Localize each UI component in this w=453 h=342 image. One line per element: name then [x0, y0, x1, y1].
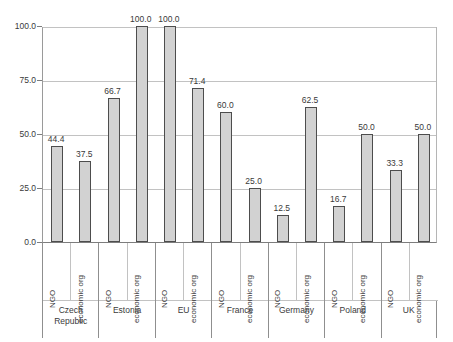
- y-axis-tick-label: 75.0: [0, 76, 36, 85]
- bar: [390, 170, 402, 242]
- plot-area: [42, 27, 437, 243]
- series-label-cell: economic org: [183, 243, 211, 301]
- y-axis-tick-label: 25.0: [0, 184, 36, 193]
- bar-value-label: 62.5: [290, 96, 330, 105]
- series-label-cell: NGO: [98, 243, 126, 301]
- series-label-cell: NGO: [324, 243, 352, 301]
- bar: [361, 134, 373, 242]
- gridline: [43, 189, 436, 190]
- bar-value-label: 60.0: [205, 101, 245, 110]
- y-axis-tick-label: 50.0: [0, 130, 36, 139]
- group-label-cell: Poland: [324, 301, 380, 338]
- bar: [249, 188, 261, 242]
- y-axis-tick-label: 0.0: [0, 238, 36, 247]
- series-label-cell: economic org: [127, 243, 155, 301]
- bar: [418, 134, 430, 242]
- group-label-row: Czech RepublicEstoniaEUFranceGermanyPola…: [42, 301, 438, 338]
- bar: [51, 146, 63, 242]
- bar-value-label: 50.0: [346, 123, 386, 132]
- gridline: [43, 27, 436, 28]
- bar: [164, 26, 176, 242]
- group-label-cell: Estonia: [98, 301, 154, 338]
- bar-value-label: 37.5: [64, 150, 104, 159]
- bar-value-label: 66.7: [93, 87, 133, 96]
- series-label-cell: economic org: [352, 243, 380, 301]
- series-label-cell: NGO: [211, 243, 239, 301]
- bar-value-label: 12.5: [262, 204, 302, 213]
- bar-value-label: 50.0: [403, 123, 443, 132]
- group-label: Germany: [279, 305, 314, 316]
- group-label-cell: France: [211, 301, 267, 338]
- group-label-cell: EU: [155, 301, 211, 338]
- y-axis-tick-label: 100.0: [0, 22, 36, 31]
- group-label: France: [227, 305, 253, 316]
- bar-value-label: 16.7: [318, 195, 358, 204]
- series-label-cell: NGO: [155, 243, 183, 301]
- bar: [79, 161, 91, 242]
- bar-value-label: 100.0: [149, 15, 189, 24]
- bar: [305, 107, 317, 242]
- group-label-cell: Germany: [268, 301, 324, 338]
- gridline: [43, 81, 436, 82]
- bar-value-label: 44.4: [36, 135, 76, 144]
- group-label: Czech Republic: [54, 305, 87, 327]
- series-label-row: NGOeconomic orgNGOeconomic orgNGOeconomi…: [42, 243, 438, 301]
- group-label: Estonia: [113, 305, 141, 316]
- x-axis: NGOeconomic orgNGOeconomic orgNGOeconomi…: [42, 243, 438, 338]
- group-label-cell: UK: [381, 301, 437, 338]
- bar-value-label: 71.4: [177, 77, 217, 86]
- series-label-cell: NGO: [381, 243, 409, 301]
- bar: [220, 112, 232, 242]
- series-label-cell: NGO: [268, 243, 296, 301]
- bar-value-label: 33.3: [375, 159, 415, 168]
- group-label: EU: [178, 305, 190, 316]
- series-label-cell: economic org: [240, 243, 268, 301]
- group-label: UK: [403, 305, 415, 316]
- bar: [108, 98, 120, 242]
- series-label-cell: economic org: [296, 243, 324, 301]
- series-label-cell: NGO: [42, 243, 70, 301]
- bar: [192, 88, 204, 242]
- gridline: [43, 135, 436, 136]
- bar: [333, 206, 345, 242]
- bar-chart: 0.025.050.075.0100.0 NGOeconomic orgNGOe…: [0, 0, 453, 342]
- bar: [136, 26, 148, 242]
- bar-value-label: 25.0: [234, 177, 274, 186]
- group-label: Poland: [340, 305, 366, 316]
- series-label-cell: economic org: [409, 243, 437, 301]
- series-label-cell: economic org: [70, 243, 98, 301]
- bar: [277, 215, 289, 242]
- group-label-cell: Czech Republic: [42, 301, 98, 338]
